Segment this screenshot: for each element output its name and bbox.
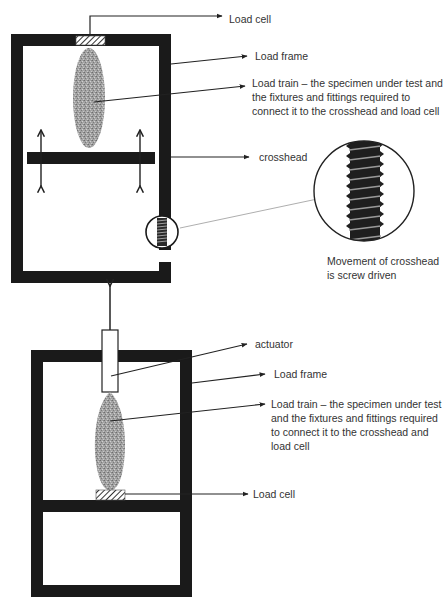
lower-load-cell <box>96 490 125 500</box>
label-upper-load-cell: Load cell <box>229 12 271 26</box>
screw-small <box>146 216 178 248</box>
actuator <box>102 330 118 392</box>
leader-upper-load-frame <box>171 56 247 64</box>
label-upper-load-train: Load train – the specimen under test and… <box>252 76 447 118</box>
lower-machine <box>31 330 265 597</box>
lower-specimen <box>95 392 125 491</box>
label-lower-load-train: Load train – the specimen under test and… <box>271 397 446 453</box>
upper-load-cell <box>76 36 105 45</box>
upper-crosshead <box>27 152 155 164</box>
screw-magnified <box>314 138 414 246</box>
label-lower-load-frame: Load frame <box>274 367 327 381</box>
label-actuator: actuator <box>255 337 293 351</box>
label-lower-load-cell: Load cell <box>253 487 295 501</box>
upper-specimen <box>73 48 105 148</box>
label-screw-note: Movement of crosshead is screw driven <box>327 254 447 282</box>
leader-upper-load-cell <box>90 16 222 36</box>
label-upper-load-frame: Load frame <box>255 49 308 63</box>
label-crosshead: crosshead <box>259 150 307 164</box>
leader-lower-load-frame <box>192 374 265 383</box>
leader-screw-detail <box>180 198 322 228</box>
